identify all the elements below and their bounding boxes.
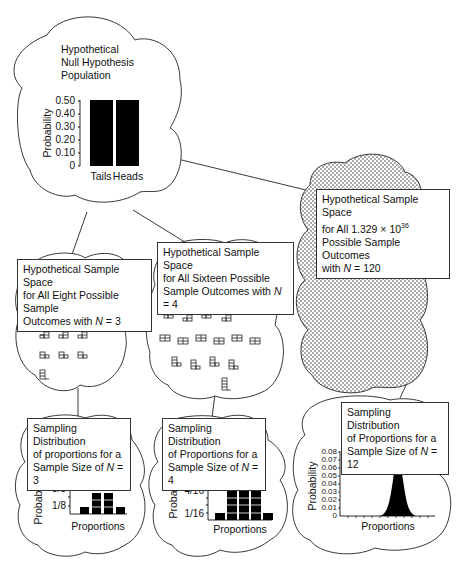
label-text: Sample Size of <box>33 461 107 473</box>
population-title: Hypothetical Null Hypothesis Population <box>61 43 134 82</box>
svg-text:Heads: Heads <box>113 170 143 182</box>
svg-text:Tails: Tails <box>90 170 111 182</box>
n-symbol: N <box>421 445 429 457</box>
label-line: Sample Size of N = 12 <box>347 445 443 471</box>
label-text: Outcomes with <box>23 315 95 327</box>
exponent: 36 <box>401 222 409 229</box>
svg-text:1/8: 1/8 <box>52 500 66 511</box>
population-title-line2: Null Hypothesis <box>61 56 134 69</box>
label-line: Hypothetical Sample Space <box>322 193 444 219</box>
svg-text:0.30: 0.30 <box>56 121 76 132</box>
n-symbol: N <box>242 461 250 473</box>
sample-space-n4-label: Hypothetical Sample Space for All Sixtee… <box>157 242 294 315</box>
label-line: of proportions for a <box>33 448 125 461</box>
n-symbol: N <box>95 315 103 327</box>
dist-n4-label: Sampling Distribution of Proportions for… <box>162 418 266 491</box>
population-title-line1: Hypothetical <box>61 43 134 56</box>
label-line: Sampling Distribution <box>33 422 125 448</box>
label-line: Possible Sample Outcomes <box>322 236 444 262</box>
label-line: for All 1.329 × 1036 <box>322 219 444 236</box>
svg-text:0: 0 <box>69 160 75 171</box>
svg-text:1/16: 1/16 <box>185 508 205 519</box>
n-symbol: N <box>274 285 282 297</box>
svg-text:Probability: Probability <box>306 461 318 511</box>
label-text: = 120 <box>351 262 381 274</box>
svg-text:0.50: 0.50 <box>56 95 76 106</box>
label-line: with N = 120 <box>322 262 444 275</box>
label-line: for All Eight Possible Sample <box>23 289 146 315</box>
svg-text:0: 0 <box>333 511 338 520</box>
connector-population-to-n120 <box>165 156 306 190</box>
label-text: Sample Size of <box>347 445 421 457</box>
sample-space-n3-label: Hypothetical Sample Space for All Eight … <box>17 259 152 332</box>
label-line: Sampling Distribution <box>347 406 443 432</box>
svg-text:Proportions: Proportions <box>71 520 125 532</box>
population-title-line3: Population <box>61 69 134 82</box>
label-text: for All 1.329 × 10 <box>322 223 401 235</box>
label-line: Sample Size of N = 4 <box>168 461 260 487</box>
connector-population-to-n3 <box>70 212 87 260</box>
label-line: of Proportions for a <box>347 432 443 445</box>
label-text: = 4 <box>163 298 178 310</box>
label-line: for All Sixteen Possible <box>163 272 288 285</box>
label-text: with <box>322 262 344 274</box>
svg-text:0.10: 0.10 <box>56 147 76 158</box>
label-line: Hypothetical Sample Space <box>23 263 146 289</box>
label-line: of Proportions for a <box>168 448 260 461</box>
label-line: Sampling Distribution <box>168 422 260 448</box>
bar-heads <box>116 100 139 166</box>
sample-space-n120-label: Hypothetical Sample Space for All 1.329 … <box>316 189 450 279</box>
svg-text:Proportions: Proportions <box>361 520 415 532</box>
svg-text:Proportions: Proportions <box>213 523 267 535</box>
label-text: Sample Outcomes with <box>163 285 274 297</box>
connector-n4-to-dist4 <box>212 394 215 418</box>
svg-text:0.40: 0.40 <box>56 108 76 119</box>
label-line: Outcomes with N = 3 <box>23 315 146 328</box>
label-line: Hypothetical Sample Space <box>163 246 288 272</box>
dist-n3-label: Sampling Distribution of proportions for… <box>27 418 131 491</box>
svg-text:0.20: 0.20 <box>56 134 76 145</box>
n-symbol: N <box>107 461 115 473</box>
label-line: Sample Size of N = 3 <box>33 461 125 487</box>
label-line: Sample Outcomes with N = 4 <box>163 285 288 311</box>
bar-tails <box>90 100 113 166</box>
svg-text:Probability: Probability <box>41 108 53 158</box>
label-text: = 3 <box>103 315 121 327</box>
label-text: Sample Size of <box>168 461 242 473</box>
dist-n12-label: Sampling Distribution of Proportions for… <box>341 402 449 475</box>
connector-population-to-n4 <box>133 210 188 244</box>
